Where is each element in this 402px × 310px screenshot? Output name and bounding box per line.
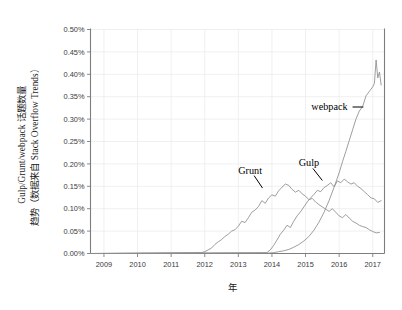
- x-tick-labels: 200920102011201220132014201520162017: [96, 260, 381, 269]
- series-line-grunt: [91, 184, 380, 253]
- grid-lines: [91, 30, 385, 254]
- y-axis-title-line1: Gulp/Grunt/webpack 话题数量: [16, 86, 27, 204]
- x-tick-label: 2010: [129, 260, 145, 269]
- x-tick-label: 2017: [365, 260, 381, 269]
- y-tick-label: 0.35%: [64, 92, 85, 101]
- x-axis-title: 年: [228, 282, 237, 293]
- y-tick-label: 0.10%: [64, 204, 85, 213]
- y-tick-label: 0.20%: [64, 160, 85, 169]
- x-tick-label: 2015: [297, 260, 313, 269]
- series-annotation-gulp: Gulp: [299, 157, 319, 168]
- series-line-webpack: [91, 60, 382, 254]
- leader-line-gulp: [313, 168, 322, 180]
- data-series-lines: [91, 60, 382, 254]
- y-tick-label: 0.00%: [64, 249, 85, 258]
- x-tick-label: 2011: [163, 260, 179, 269]
- chart-container: 0.00%0.05%0.10%0.15%0.20%0.25%0.30%0.35%…: [0, 0, 402, 310]
- x-tick-label: 2014: [264, 260, 280, 269]
- x-tick-label: 2016: [331, 260, 347, 269]
- y-tick-label: 0.05%: [64, 227, 85, 236]
- y-tick-label: 0.45%: [64, 48, 85, 57]
- series-annotation-webpack: webpack: [311, 101, 348, 112]
- y-axis-title-line2: 趋势（数据来自 Stack Overflow Trends）: [29, 64, 40, 225]
- y-tick-label: 0.50%: [64, 25, 85, 34]
- x-tick-label: 2013: [230, 260, 246, 269]
- y-tick-label: 0.40%: [64, 70, 85, 79]
- y-tick-label: 0.25%: [64, 137, 85, 146]
- y-tick-labels: 0.00%0.05%0.10%0.15%0.20%0.25%0.30%0.35%…: [64, 25, 85, 258]
- y-tick-label: 0.30%: [64, 115, 85, 124]
- series-annotations: webpackGruntGulp: [238, 101, 363, 188]
- x-tick-label: 2012: [197, 260, 213, 269]
- y-tick-label: 0.15%: [64, 182, 85, 191]
- series-annotation-grunt: Grunt: [238, 165, 262, 176]
- x-tick-label: 2009: [96, 260, 112, 269]
- series-line-gulp: [91, 179, 382, 253]
- stackoverflow-trends-line-chart: 0.00%0.05%0.10%0.15%0.20%0.25%0.30%0.35%…: [0, 0, 402, 310]
- axis-spines: [91, 29, 385, 254]
